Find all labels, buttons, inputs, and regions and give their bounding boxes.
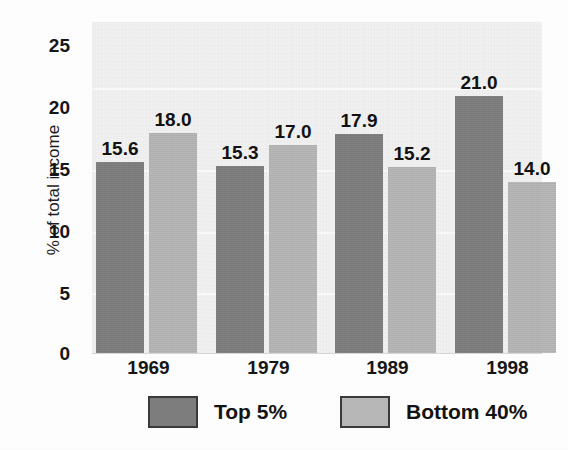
y-tick-label-10: 10 [28,222,70,241]
legend-swatch-bottom40 [340,396,390,428]
y-tick-label-5: 5 [28,284,70,303]
legend-entry-top5: Top 5% [148,396,287,428]
bar-1998-top5 [455,96,503,353]
bar-chart: % of total income 25 20 15 10 5 0 15.6 1… [0,0,568,450]
data-label-1969-bottom40: 18.0 [149,110,197,130]
data-label-1979-bottom40: 17.0 [269,122,317,142]
y-tick-label-15: 15 [28,160,70,179]
data-label-1989-top5: 17.9 [335,111,383,131]
y-tick-label-25: 25 [28,36,70,55]
x-tick-label-1989: 1989 [335,357,440,379]
x-tick-label-1998: 1998 [455,357,560,379]
data-label-1998-bottom40: 14.0 [508,159,556,179]
legend-swatch-top5 [148,396,198,428]
legend-entry-bottom40: Bottom 40% [340,396,527,428]
bar-1998-bottom40 [508,182,556,353]
data-label-1998-top5: 21.0 [455,73,503,93]
data-label-1979-top5: 15.3 [216,143,264,163]
bar-1979-bottom40 [269,145,317,353]
data-label-1989-bottom40: 15.2 [388,144,436,164]
x-tick-label-1969: 1969 [96,357,201,379]
x-tick-label-1979: 1979 [216,357,321,379]
bar-1979-top5 [216,166,264,353]
y-tick-label-0: 0 [28,344,70,363]
x-axis-line [92,353,542,354]
bar-1989-top5 [335,134,383,353]
bar-1969-top5 [96,162,144,353]
bar-1989-bottom40 [388,167,436,353]
legend-label-bottom40: Bottom 40% [406,400,527,424]
data-label-1969-top5: 15.6 [96,139,144,159]
bar-1969-bottom40 [149,133,197,353]
legend-label-top5: Top 5% [214,400,287,424]
chart-legend: Top 5% Bottom 40% [0,392,568,438]
y-tick-label-20: 20 [28,98,70,117]
